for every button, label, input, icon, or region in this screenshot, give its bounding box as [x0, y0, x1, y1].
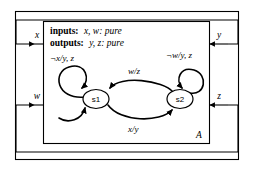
- inputs-keyword: inputs:: [50, 26, 79, 36]
- outputs-keyword: outputs:: [50, 38, 84, 48]
- state-node-s2[interactable]: s2: [167, 90, 193, 109]
- port-label-y: y: [216, 30, 222, 40]
- transition-label-s1-to-s2: x/y: [127, 124, 139, 134]
- inputs-value: x, w: pure: [83, 26, 122, 36]
- outputs-value: y, z: pure: [88, 38, 124, 48]
- port-label-x: x: [34, 30, 40, 40]
- state-label-s2: s2: [176, 95, 185, 104]
- inputs-declaration: inputs: x, w: pure: [50, 26, 122, 36]
- port-label-w: w: [34, 91, 41, 101]
- transition-label-s1-self: ¬x/y, z: [50, 53, 75, 63]
- state-label-s1: s1: [92, 95, 101, 104]
- transition-label-s2-to-s1: w/z: [128, 66, 141, 76]
- state-machine-diagram: x w y z inputs: x, w: pure outputs: y, z…: [0, 0, 254, 171]
- transition-label-s2-self: ¬w/y, z: [166, 50, 193, 60]
- actor-name-label: A: [195, 130, 202, 140]
- diagram-page: x w y z inputs: x, w: pure outputs: y, z…: [0, 0, 254, 171]
- port-label-z: z: [216, 91, 221, 101]
- state-node-s1[interactable]: s1: [83, 90, 109, 109]
